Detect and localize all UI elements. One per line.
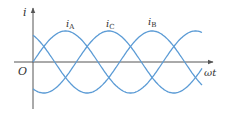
label-iC: iC <box>106 18 115 31</box>
origin-label: O <box>18 65 27 78</box>
label-iA: iA <box>66 18 75 31</box>
x-axis-label: ωt <box>204 67 217 78</box>
label-iB: iB <box>148 16 156 29</box>
y-axis-label: i <box>23 6 27 19</box>
three-phase-diagram: i O ωt iA iC iB <box>0 0 225 117</box>
